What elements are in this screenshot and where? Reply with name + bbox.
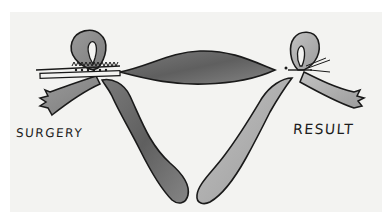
left-uterine-horn [102, 80, 188, 203]
surgical-clamp-icon [36, 62, 120, 78]
result-label: RESULT [292, 121, 354, 137]
uterus-diagram [0, 0, 391, 221]
uterus-fundus [120, 51, 275, 84]
surgery-label: SURGERY [16, 126, 84, 140]
left-fimbria [40, 76, 100, 115]
right-loop-inner [297, 46, 304, 66]
illustration-canvas: SURGERY RESULT [0, 0, 391, 221]
right-fimbria [300, 72, 364, 108]
right-uterine-horn [197, 78, 292, 204]
